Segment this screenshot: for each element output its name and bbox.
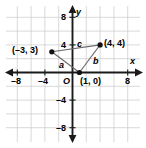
point-c-marker: [77, 70, 82, 75]
point-a-marker: [49, 49, 54, 54]
segment-a: [52, 52, 80, 73]
axis-y: [69, 5, 77, 143]
coordinate-plane-figure: x y 8 4 –4 –8 –8 –4 8 O (–3, 3) (4, 4) (…: [0, 0, 146, 148]
coordinate-plane-svg: [0, 0, 146, 148]
axis-x: [5, 69, 143, 77]
point-b-marker: [98, 42, 103, 47]
